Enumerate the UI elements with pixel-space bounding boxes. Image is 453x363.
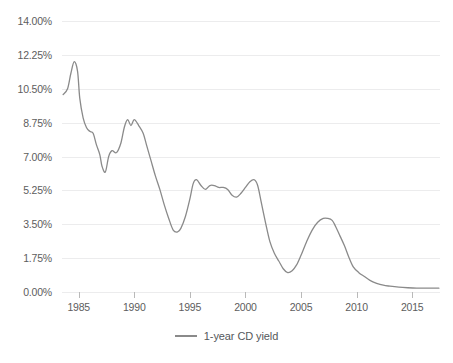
y-axis-tick-label: 12.25% — [0, 49, 52, 61]
legend-swatch-1-year-cd-yield — [175, 335, 197, 337]
y-axis-tick-label: 1.75% — [0, 252, 52, 264]
x-axis-tick-mark — [357, 292, 358, 298]
series-line-path — [63, 62, 439, 289]
x-axis-tick-mark — [245, 292, 246, 298]
y-axis-tick-label: 5.25% — [0, 184, 52, 196]
gridline-0.00 — [62, 292, 440, 293]
y-axis-tick-label: 14.00% — [0, 15, 52, 27]
cd-yield-line-chart: 0.00%1.75%3.50%5.25%7.00%8.75%10.50%12.2… — [0, 0, 453, 363]
x-axis-tick-mark — [79, 292, 80, 298]
y-axis-tick-label: 0.00% — [0, 286, 52, 298]
y-axis-tick-label: 8.75% — [0, 117, 52, 129]
x-axis-tick-label: 2010 — [345, 301, 368, 313]
series-1-year-cd-yield — [62, 21, 440, 292]
x-axis-tick-mark — [134, 292, 135, 298]
plot-area — [62, 21, 440, 292]
x-axis-tick-label: 2005 — [290, 301, 313, 313]
legend-label-1-year-cd-yield: 1-year CD yield — [204, 330, 278, 342]
x-axis-tick-label: 2000 — [234, 301, 257, 313]
y-axis-tick-label: 3.50% — [0, 218, 52, 230]
x-axis-tick-label: 1990 — [123, 301, 146, 313]
y-axis-tick-label: 7.00% — [0, 151, 52, 163]
legend: 1-year CD yield — [0, 330, 453, 342]
x-axis-tick-mark — [301, 292, 302, 298]
x-axis-tick-label: 1985 — [67, 301, 90, 313]
x-axis-tick-label: 2015 — [401, 301, 424, 313]
x-axis-tick-mark — [412, 292, 413, 298]
x-axis-tick-mark — [190, 292, 191, 298]
x-axis-tick-label: 1995 — [179, 301, 202, 313]
y-axis-tick-label: 10.50% — [0, 83, 52, 95]
